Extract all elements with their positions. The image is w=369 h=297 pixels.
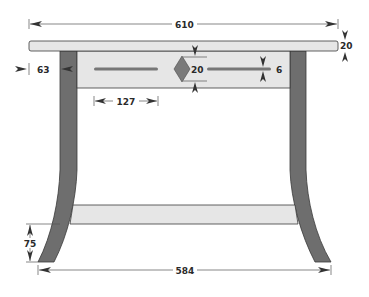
right-leg	[290, 51, 331, 262]
arrow-down-icon	[342, 30, 348, 40]
dim-label-63: 63	[37, 65, 50, 75]
dim-label-610: 610	[175, 20, 194, 30]
arrow-up-icon	[342, 52, 348, 62]
dim-label-20-diamond: 20	[191, 65, 204, 75]
dimension-top-thickness: 20	[340, 30, 353, 62]
dim-label-75: 75	[24, 239, 37, 249]
dimension-top-width: 610	[29, 19, 338, 30]
dim-label-584: 584	[176, 266, 195, 276]
table-top	[29, 41, 338, 51]
table-elevation-drawing: 610 20 63 20 6 127	[0, 0, 369, 297]
left-slot	[94, 68, 158, 71]
dim-label-6: 6	[276, 65, 282, 75]
dimension-slot-length: 127	[94, 96, 158, 107]
right-slot	[207, 68, 271, 71]
dim-label-127: 127	[117, 97, 136, 107]
dim-label-20-top: 20	[340, 41, 353, 51]
stretcher	[70, 205, 298, 224]
dimension-foot-span: 584	[38, 265, 331, 276]
arrow-right-icon	[15, 66, 27, 72]
left-leg	[38, 51, 77, 262]
